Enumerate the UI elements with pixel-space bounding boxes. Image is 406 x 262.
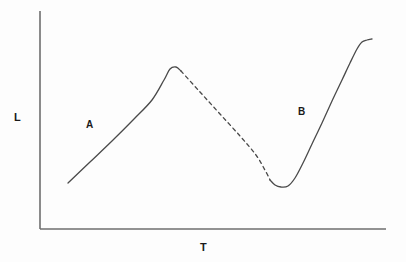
curve-annotation-a: A: [86, 120, 93, 130]
curve-annotation-b: B: [298, 107, 305, 117]
curve-segment-b: [270, 39, 372, 187]
y-axis-label: L: [14, 112, 21, 123]
x-axis-label: T: [200, 242, 207, 253]
line-chart-plot: [0, 0, 406, 262]
curve-segment-a: [68, 67, 181, 183]
figure-canvas: L T A B: [0, 0, 406, 262]
curve-segment-dashed: [181, 71, 270, 180]
